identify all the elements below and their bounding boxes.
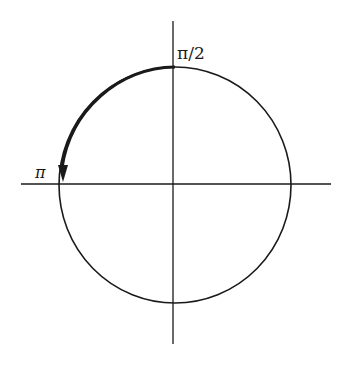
label-pi: π [34,163,46,182]
label-pi-half: π/2 [177,43,205,63]
unit-circle-diagram: π/2 π [0,0,348,365]
